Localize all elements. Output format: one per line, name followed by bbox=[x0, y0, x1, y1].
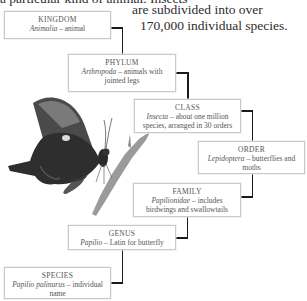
rank-description: Arthropoda – animals with jointed legs bbox=[69, 67, 175, 85]
rank-label: PHYLUM bbox=[69, 58, 175, 67]
taxonomy-box-order: ORDER Lepidoptera – butterflies and moth… bbox=[198, 141, 305, 174]
rank-description: Papilio palinurus – individual name bbox=[5, 280, 110, 298]
taxonomy-box-genus: GENUS Papilio – Latin for butterfly bbox=[68, 225, 176, 250]
connector-kingdom-phylum-v bbox=[122, 27, 124, 54]
intro-text-line1: are subdivided into over bbox=[132, 2, 263, 17]
rank-description: Insecta – about one million species, arr… bbox=[135, 112, 240, 130]
connector-order-family-v bbox=[252, 174, 254, 197]
intro-text-line2: 170,000 individual species. bbox=[140, 18, 288, 33]
rank-label: KINGDOM bbox=[5, 15, 110, 24]
connector-class-order-v bbox=[252, 110, 254, 141]
taxonomy-box-class: CLASS Insecta – about one million specie… bbox=[134, 99, 241, 133]
rank-description: Lepidoptera – butterflies and moths bbox=[199, 154, 304, 172]
taxonomy-box-kingdom: KINGDOM Animalia – animal bbox=[4, 11, 111, 39]
taxonomy-box-species: SPECIES Papilio palinurus – individual n… bbox=[4, 267, 111, 299]
rank-description: Papilio – Latin for butterfly bbox=[69, 238, 175, 247]
rank-description: Animalia – animal bbox=[5, 24, 110, 33]
connector-phylum-class-v bbox=[187, 72, 189, 99]
connector-genus-species-v bbox=[122, 250, 124, 283]
taxonomy-box-phylum: PHYLUM Arthropoda – animals with jointed… bbox=[68, 54, 176, 92]
rank-label: FAMILY bbox=[134, 187, 240, 196]
rank-label: SPECIES bbox=[5, 271, 110, 280]
taxonomy-box-family: FAMILY Papilionidae – includes birdwings… bbox=[133, 183, 241, 217]
connector-order-family-h bbox=[241, 196, 253, 198]
rank-label: CLASS bbox=[135, 103, 240, 112]
rank-description: Papilionidae – includes birdwings and sw… bbox=[134, 196, 240, 214]
connector-family-genus-h bbox=[176, 237, 188, 239]
rank-label: GENUS bbox=[69, 229, 175, 238]
connector-genus-species-h bbox=[111, 282, 123, 284]
rank-label: ORDER bbox=[199, 145, 304, 154]
